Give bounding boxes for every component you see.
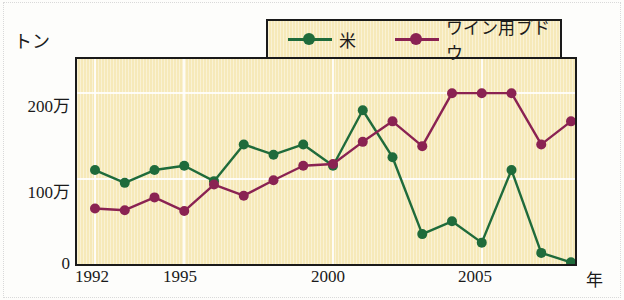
legend-swatch-rice bbox=[288, 32, 332, 46]
series-line bbox=[95, 93, 571, 211]
legend-marker-icon bbox=[303, 33, 315, 45]
y-tick-0: 0 bbox=[8, 254, 70, 274]
data-point-marker[interactable] bbox=[179, 161, 189, 171]
data-point-marker[interactable] bbox=[90, 203, 100, 213]
x-tick-label-2000: 2000 bbox=[311, 267, 345, 287]
x-tick-label-2005: 2005 bbox=[458, 267, 492, 287]
data-point-marker[interactable] bbox=[90, 165, 100, 175]
data-point-marker[interactable] bbox=[566, 257, 576, 266]
data-point-marker[interactable] bbox=[120, 205, 130, 215]
data-point-marker[interactable] bbox=[536, 248, 546, 258]
data-point-marker[interactable] bbox=[507, 88, 517, 98]
chart-legend: 米 ワイン用ブドウ bbox=[266, 19, 562, 59]
data-point-marker[interactable] bbox=[477, 88, 487, 98]
data-point-marker[interactable] bbox=[209, 180, 219, 190]
data-point-marker[interactable] bbox=[536, 139, 546, 149]
legend-label-wine-grape: ワイン用ブドウ bbox=[446, 14, 561, 64]
data-point-marker[interactable] bbox=[417, 229, 427, 239]
y-axis-title: トン bbox=[14, 27, 50, 53]
y-tick-label-100: 100万 bbox=[8, 178, 70, 203]
data-point-marker[interactable] bbox=[477, 238, 487, 248]
data-point-marker[interactable] bbox=[150, 192, 160, 202]
data-point-marker[interactable] bbox=[239, 139, 249, 149]
data-point-marker[interactable] bbox=[358, 137, 368, 147]
series-layer bbox=[77, 59, 575, 264]
y-tick-100: 100万 bbox=[8, 178, 70, 203]
y-tick-label-200: 200万 bbox=[8, 92, 70, 117]
series-wine-grape bbox=[90, 88, 576, 216]
data-point-marker[interactable] bbox=[447, 216, 457, 226]
chart-figure: トン 200万 100万 0 1992 1995 2000 2005 年 米 bbox=[0, 0, 624, 300]
data-point-marker[interactable] bbox=[566, 116, 576, 126]
x-tick-label-1995: 1995 bbox=[163, 267, 197, 287]
y-tick-label-0: 0 bbox=[8, 254, 70, 274]
legend-label-rice: 米 bbox=[339, 27, 357, 52]
legend-marker-icon bbox=[410, 33, 422, 45]
data-point-marker[interactable] bbox=[328, 159, 338, 169]
legend-entry-wine-grape[interactable]: ワイン用ブドウ bbox=[395, 14, 561, 64]
data-point-marker[interactable] bbox=[179, 206, 189, 216]
legend-swatch-wine-grape bbox=[395, 32, 439, 46]
x-axis-title: 年 bbox=[586, 266, 603, 291]
data-point-marker[interactable] bbox=[150, 165, 160, 175]
data-point-marker[interactable] bbox=[388, 116, 398, 126]
series-rice bbox=[90, 105, 576, 266]
data-point-marker[interactable] bbox=[239, 191, 249, 201]
data-point-marker[interactable] bbox=[269, 175, 279, 185]
x-tick-label-1992: 1992 bbox=[75, 267, 109, 287]
data-point-marker[interactable] bbox=[417, 141, 427, 151]
data-point-marker[interactable] bbox=[447, 88, 457, 98]
data-point-marker[interactable] bbox=[298, 139, 308, 149]
data-point-marker[interactable] bbox=[298, 161, 308, 171]
data-point-marker[interactable] bbox=[358, 105, 368, 115]
data-point-marker[interactable] bbox=[120, 178, 130, 188]
plot-area bbox=[75, 57, 577, 266]
data-point-marker[interactable] bbox=[388, 152, 398, 162]
series-line bbox=[95, 110, 571, 262]
y-tick-200: 200万 bbox=[8, 92, 70, 117]
legend-entry-rice[interactable]: 米 bbox=[288, 27, 357, 52]
data-point-marker[interactable] bbox=[507, 165, 517, 175]
data-point-marker[interactable] bbox=[269, 150, 279, 160]
